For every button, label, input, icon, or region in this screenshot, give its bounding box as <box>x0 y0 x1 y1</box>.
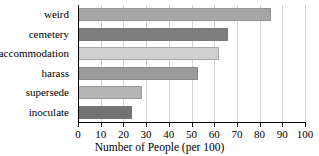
x-axis-tick-label: 20 <box>118 128 129 140</box>
x-axis-tick <box>169 122 170 127</box>
y-axis-label: harass <box>42 68 70 79</box>
bar-row <box>78 44 305 64</box>
y-axis-label: weird <box>44 9 69 20</box>
bar-series <box>78 5 305 122</box>
y-axis-label: accommodation <box>0 48 69 59</box>
bar-chart: weirdcemeteryaccommodationharasssupersed… <box>0 0 319 156</box>
y-axis-label: cemetery <box>29 29 69 40</box>
x-axis-tick <box>282 122 283 127</box>
y-axis-label-row: supersede <box>0 83 73 103</box>
x-axis-tick-label: 60 <box>209 128 220 140</box>
bar <box>78 67 198 80</box>
x-axis-tick-label: 100 <box>297 128 314 140</box>
bar <box>78 47 219 60</box>
gridline <box>305 5 306 122</box>
y-axis-line <box>78 5 79 122</box>
y-axis-label-row: weird <box>0 5 73 25</box>
y-axis-label-row: cemetery <box>0 25 73 45</box>
bar <box>78 8 271 21</box>
x-axis-tick <box>123 122 124 127</box>
bar-row <box>78 103 305 123</box>
x-axis-title: Number of People (per 100) <box>0 140 319 154</box>
y-axis-label-row: harass <box>0 64 73 84</box>
y-axis-label: inoculate <box>29 107 69 118</box>
x-axis-tick-label: 50 <box>186 128 197 140</box>
x-axis-tick-label: 10 <box>95 128 106 140</box>
x-axis-tick <box>78 122 79 127</box>
y-axis-label-row: accommodation <box>0 44 73 64</box>
x-axis-tick-label: 70 <box>231 128 242 140</box>
x-axis-tick-label: 30 <box>141 128 152 140</box>
plot-area <box>78 5 305 122</box>
bar-row <box>78 5 305 25</box>
x-axis-tick <box>237 122 238 127</box>
bar-row <box>78 83 305 103</box>
bar-row <box>78 25 305 45</box>
y-axis-label: supersede <box>26 87 69 98</box>
x-axis-tick-label: 40 <box>163 128 174 140</box>
x-axis-tick-label: 0 <box>75 128 81 140</box>
x-axis-tick <box>214 122 215 127</box>
x-axis-tick-label: 90 <box>277 128 288 140</box>
x-axis-tick-label: 80 <box>254 128 265 140</box>
y-axis-category-labels: weirdcemeteryaccommodationharasssupersed… <box>0 5 73 122</box>
bar-row <box>78 64 305 84</box>
x-axis-tick <box>260 122 261 127</box>
x-axis-tick <box>101 122 102 127</box>
bar <box>78 106 132 119</box>
y-axis-label-row: inoculate <box>0 103 73 123</box>
x-axis-tick <box>146 122 147 127</box>
x-axis-tick <box>305 122 306 127</box>
bar <box>78 28 228 41</box>
bar <box>78 86 142 99</box>
x-axis-tick <box>192 122 193 127</box>
